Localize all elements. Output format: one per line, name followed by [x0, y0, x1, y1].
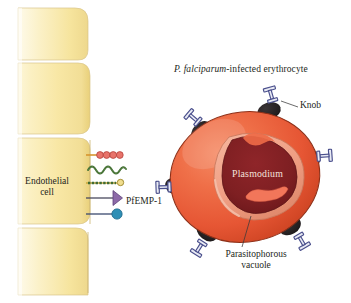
knob-label: Knob [300, 100, 321, 111]
pfemp1-foot [317, 151, 321, 161]
pfemp1-label: PfEMP-1 [126, 196, 162, 207]
endothelial-cell-4 [18, 228, 88, 295]
pfemp1-molecule [317, 149, 333, 162]
endothelium-group [10, 8, 90, 296]
receptor-sphere-head [112, 209, 122, 219]
endothelial-cell-label-line2: cell [40, 187, 54, 197]
leader-line-knob [281, 101, 298, 107]
endothelial-cell-2 [18, 63, 90, 134]
receptor-bead [116, 152, 123, 159]
receptor-wavy-fiber-receptor [88, 167, 126, 174]
pfemp1-stem [268, 90, 273, 99]
figure-title: P. falciparum-infected erythrocyte [174, 64, 308, 75]
receptor-beaded-chain-receptor [86, 152, 123, 159]
pfemp1-molecule [263, 86, 279, 104]
vacuole-label-line2: vacuole [241, 260, 271, 270]
vacuole-label-line1: Parasitophorous [225, 249, 286, 259]
figure-canvas: P. falciparum-infected erythrocyte Endot… [0, 0, 351, 303]
pfemp1-stem [159, 186, 168, 189]
parasitophorous-vacuole-label: Parasitophorousvacuole [196, 249, 316, 271]
receptor-bead [110, 152, 117, 159]
receptor-bead [103, 152, 110, 159]
receptor-triangle-receptor [86, 191, 123, 206]
receptor-bead [97, 152, 104, 159]
figure-title-species: P. falciparum [174, 64, 226, 74]
receptor-wave [88, 167, 126, 174]
endothelial-cell-1 [18, 8, 88, 60]
receptor-sphere-receptor [86, 209, 122, 219]
pfemp1-foot [168, 182, 171, 192]
receptor-group [86, 152, 126, 219]
receptor-tip-sphere [117, 179, 123, 185]
endothelial-cell-body [18, 63, 90, 134]
figure-title-rest: -infected erythrocyte [226, 64, 308, 74]
pfemp1-stem [320, 154, 329, 157]
endothelial-cell-body [18, 228, 88, 295]
pfemp1-molecule [293, 232, 311, 251]
receptor-triangle-head [113, 191, 123, 206]
plasmodium-label: Plasmodium [232, 168, 283, 179]
pfemp1-molecule [156, 181, 171, 194]
pfemp1-foot [267, 98, 277, 104]
endothelial-cell-label-line1: Endothelial [25, 176, 69, 186]
endothelium-left-fade [10, 8, 22, 296]
receptor-dashed-stalk-knob-receptor [86, 179, 124, 185]
endothelial-cell-label: Endothelialcell [8, 176, 86, 198]
endothelial-cell-body [18, 8, 88, 60]
